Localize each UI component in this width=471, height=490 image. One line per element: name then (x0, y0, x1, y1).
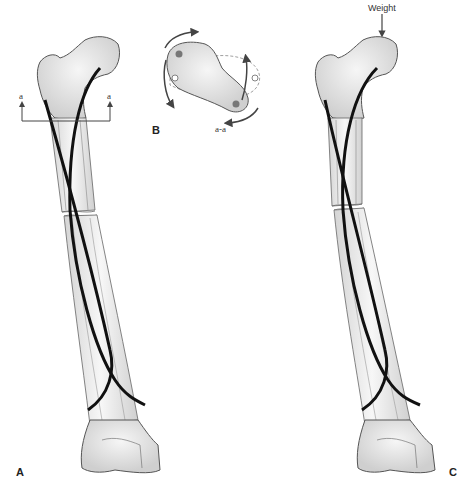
nail-point-1-b (176, 51, 183, 58)
nail-point-2-b (233, 101, 240, 108)
distal-condyles-a (81, 420, 160, 473)
panel-c-femur (315, 14, 435, 473)
femur-illustration (0, 0, 471, 490)
section-marker-right: a (107, 91, 111, 101)
femoral-head-a (37, 37, 119, 120)
panel-label-c: C (449, 466, 457, 478)
section-marker-left: a (19, 91, 23, 101)
weight-label: Weight (368, 3, 396, 13)
open-point-b (172, 75, 178, 81)
panel-label-a: A (16, 466, 24, 478)
panel-label-b: B (152, 124, 160, 136)
panel-b-cross-section (164, 32, 259, 123)
section-label-a-a: a-a (215, 124, 226, 134)
distal-condyles-c (357, 420, 435, 473)
open-point-b2 (252, 75, 258, 81)
panel-a-femur (22, 37, 160, 473)
